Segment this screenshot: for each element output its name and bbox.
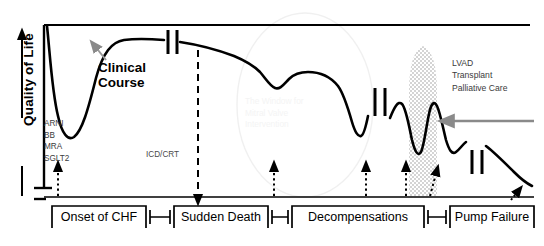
medication-item-bb: BB	[44, 130, 69, 142]
timeline-label-sudden-death: Sudden Death	[174, 210, 268, 224]
clinical-course-label-line1: Clinical	[98, 60, 146, 75]
medication-item-mra: MRA	[44, 141, 69, 153]
timeline-label-decompensations: Decompensations	[292, 210, 424, 224]
medication-item-sglt2: SGLT2	[44, 153, 69, 165]
timeline-connector-3	[428, 210, 446, 224]
clinical-course-pointer-arrow-icon	[94, 45, 106, 60]
timeline-connector-1	[150, 210, 170, 224]
watermark-line-2: Mitral Valve	[245, 108, 304, 120]
clinical-course-label-line2: Course	[98, 75, 146, 90]
clinical-course-label: Clinical Course	[98, 60, 146, 90]
watermark-line-3: Intervention	[245, 119, 304, 131]
advanced-therapy-item-palliative-care: Palliative Care	[452, 82, 507, 94]
icd-crt-label: ICD/CRT	[146, 150, 179, 159]
timeline-connector-2	[272, 210, 288, 224]
timeline-label-pump-failure: Pump Failure	[450, 210, 534, 224]
advanced-therapy-list: LVAD Transplant Palliative Care	[452, 57, 507, 94]
clinical-course-curve-segment-4	[486, 146, 532, 186]
medication-list: ARNI BB MRA SGLT2	[44, 118, 69, 164]
advanced-therapy-item-lvad: LVAD	[452, 57, 507, 69]
advanced-therapy-hatch-region	[409, 46, 437, 196]
pump-failure-arrow-icon	[511, 190, 519, 200]
y-axis-label: Quality of Life	[21, 0, 36, 160]
advanced-therapy-item-transplant: Transplant	[452, 69, 507, 81]
mitral-window-watermark: The Window for Mitral Valve Intervention	[245, 96, 304, 131]
watermark-line-1: The Window for	[245, 96, 304, 108]
medication-item-arni: ARNI	[44, 118, 69, 130]
timeline-label-onset-of-chf: Onset of CHF	[52, 210, 146, 224]
